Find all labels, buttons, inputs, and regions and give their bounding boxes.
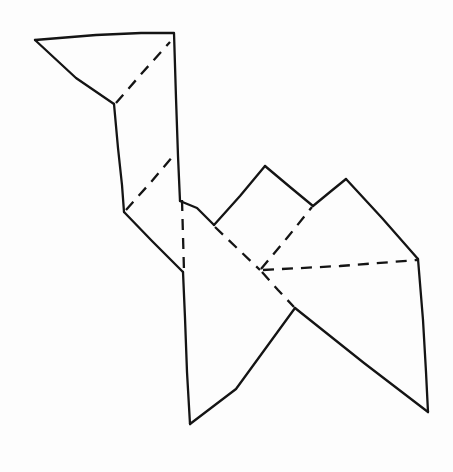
tail-lower-right-edge [295,308,428,412]
tail-lower-left-edge [190,308,295,424]
head-fold-crease [116,42,170,103]
neck-fold-crease [126,155,174,210]
valley-up-to-second-peak [313,179,346,206]
neck-left-edge [114,104,124,212]
beak-lower-edge [35,40,114,104]
center-to-valley-crease [261,207,312,269]
wing-valley-to-first-peak [214,166,265,225]
diagram-canvas: Origami crease pattern diagram Hand-draw… [0,0,453,472]
body-center-vertical-crease [182,200,184,271]
body-left-diagonal [124,212,183,272]
right-outer-vertical-edge [418,259,428,412]
second-peak-down-right-edge [346,179,418,259]
origami-figure: Origami crease pattern diagram Hand-draw… [0,0,453,472]
body-diagonal-crease-to-center [215,227,260,270]
first-peak-down-to-valley [265,166,313,206]
center-to-tail-peak-crease [262,272,294,307]
head-beak-and-neck-outline [35,33,180,201]
center-horizontal-crease [263,260,417,270]
solid-fold-edges-group [35,33,428,424]
wing-left-slope-up [180,201,214,225]
body-vertical-left [183,272,190,424]
dashed-fold-creases-group [116,42,417,307]
